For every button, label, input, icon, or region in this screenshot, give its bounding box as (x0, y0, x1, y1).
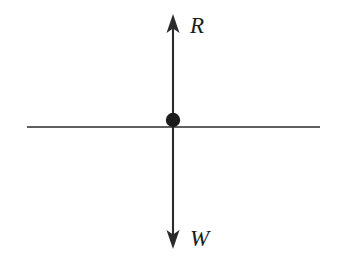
filled-dot-icon (166, 113, 180, 127)
up-force-label: R (189, 13, 204, 38)
force-diagram-figure: R W (0, 0, 340, 263)
force-diagram-canvas: R W (0, 0, 340, 263)
down-force-label: W (190, 226, 211, 251)
